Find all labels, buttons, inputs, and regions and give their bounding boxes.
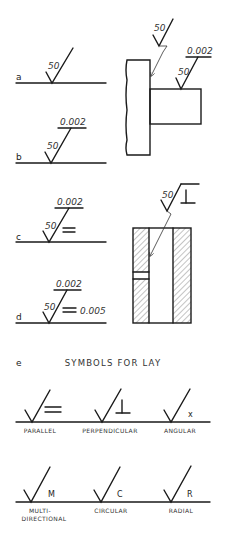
flange-outline xyxy=(126,60,150,155)
roughness-value: 50 xyxy=(178,67,190,77)
lay-parallel-icon xyxy=(63,308,76,312)
lay-glyph: C xyxy=(117,490,123,499)
lay-label: RADIAL xyxy=(169,507,194,514)
lay-glyph: R xyxy=(187,490,193,499)
lay-glyph: M xyxy=(48,490,55,499)
waviness-height-value: 0.002 xyxy=(56,279,82,289)
lay-label-line2: DIRECTIONAL xyxy=(21,515,66,522)
waviness-height-value: 0.002 xyxy=(57,197,83,207)
stub-outline xyxy=(150,89,201,124)
example-letter-b: b xyxy=(16,152,22,162)
waviness-height-value: 0.002 xyxy=(187,46,213,56)
example-a: a 50 xyxy=(16,48,106,83)
part-section: 50 xyxy=(133,184,199,323)
lay-symbols-section: e SYMBOLS FOR LAY PARALLEL PERPENDICULAR… xyxy=(16,358,210,522)
roughness-value: 50 xyxy=(47,141,59,151)
section-title: SYMBOLS FOR LAY xyxy=(65,358,162,368)
gap xyxy=(133,272,149,279)
example-c: c 0.002 50 xyxy=(16,197,106,242)
lay-symbol-circular: C CIRCULAR xyxy=(94,467,128,514)
lay-symbol-angular: x ANGULAR xyxy=(164,389,196,434)
roughness-value: 50 xyxy=(44,302,56,312)
roughness-value: 50 xyxy=(45,221,57,231)
leader-arrow xyxy=(151,46,167,76)
example-d: d 0.002 50 0.005 xyxy=(16,279,106,323)
surface-check-icon xyxy=(95,389,121,422)
waviness-height-value: 0.002 xyxy=(60,117,86,127)
lay-glyph: x xyxy=(188,410,193,419)
surface-check-icon xyxy=(24,467,50,502)
waviness-width-value: 0.005 xyxy=(80,306,106,316)
lay-perpendicular-icon xyxy=(181,190,195,203)
lay-symbol-parallel: PARALLEL xyxy=(24,390,61,434)
roughness-value: 50 xyxy=(162,190,174,200)
lay-label: PERPENDICULAR xyxy=(82,427,137,434)
surface-check-icon xyxy=(164,389,190,422)
example-letter-d: d xyxy=(16,312,22,322)
example-letter-c: c xyxy=(16,232,21,242)
lay-parallel-icon xyxy=(63,228,75,232)
roughness-value: 50 xyxy=(154,23,166,33)
lay-symbol-multidirectional: M MULTI- DIRECTIONAL xyxy=(21,467,66,522)
hatched-wall-right xyxy=(173,228,191,323)
leader-arrow xyxy=(150,211,171,256)
lay-label: CIRCULAR xyxy=(94,507,127,514)
lay-label: MULTI- xyxy=(29,507,51,514)
part-flange: 50 0.002 50 xyxy=(126,19,213,155)
lay-label: ANGULAR xyxy=(164,427,196,434)
roughness-value: 50 xyxy=(48,61,60,71)
lay-symbol-radial: R RADIAL xyxy=(164,466,193,514)
surface-check-icon xyxy=(25,390,50,422)
lay-label: PARALLEL xyxy=(24,427,57,434)
lay-symbol-perpendicular: PERPENDICULAR xyxy=(82,389,137,434)
section-letter-e: e xyxy=(16,358,22,368)
example-b: b 0.002 50 xyxy=(16,117,106,163)
surface-texture-diagram: a 50 b 0.002 50 50 0.002 50 c 0.002 50 xyxy=(0,0,227,533)
example-letter-a: a xyxy=(16,72,22,82)
